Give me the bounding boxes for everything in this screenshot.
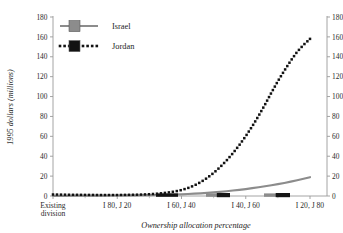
data-point-marker	[252, 124, 255, 127]
legend-marker-sample	[69, 41, 80, 52]
data-point-marker	[260, 110, 263, 113]
y-axis-right-tick-label: 160	[332, 33, 343, 42]
data-point-marker	[238, 143, 241, 146]
data-point-marker	[241, 140, 244, 143]
legend-dot-sample	[82, 45, 85, 48]
y-axis-left-tick-label: 0	[44, 192, 48, 201]
y-axis-left-tick-label: 60	[40, 132, 48, 141]
marker-cluster-overlap	[217, 193, 230, 197]
data-point-marker	[72, 194, 75, 197]
data-point-marker	[136, 193, 139, 196]
x-axis-tick-label: I 40, J 60	[232, 201, 260, 210]
legend-dot-sample	[86, 45, 89, 48]
data-point-marker	[309, 38, 312, 41]
data-point-marker	[278, 78, 281, 81]
data-point-marker	[248, 130, 251, 133]
y-axis-left-tick-label: 20	[40, 172, 48, 181]
data-point-marker	[201, 180, 204, 183]
data-point-marker	[272, 89, 275, 92]
data-point-marker	[140, 193, 143, 196]
y-axis-right-tick-label: 40	[332, 152, 340, 161]
data-point-marker	[295, 52, 298, 55]
data-point-marker	[286, 65, 289, 68]
y-axis-left-tick-label: 140	[36, 52, 47, 61]
legend-dot-sample	[91, 45, 94, 48]
data-point-marker	[176, 190, 179, 193]
data-point-marker	[284, 68, 287, 71]
data-point-marker	[250, 127, 253, 130]
data-point-marker	[92, 194, 95, 197]
data-point-marker	[168, 191, 171, 194]
data-point-marker	[205, 177, 208, 180]
data-point-marker	[96, 194, 99, 197]
data-point-marker	[290, 58, 293, 61]
x-axis-tick-label: division	[41, 209, 66, 218]
data-point-marker	[233, 150, 236, 153]
data-point-marker	[116, 194, 119, 197]
y-axis-left-tick-label: 100	[36, 92, 47, 101]
data-point-marker	[298, 49, 301, 52]
legend-marker-sample	[69, 21, 80, 32]
y-axis-left-tick-label: 120	[36, 72, 47, 81]
data-point-marker	[306, 40, 309, 43]
data-point-marker	[226, 159, 229, 162]
y-axis-left-tick-label: 180	[36, 13, 47, 22]
y-axis-left-tick-label: 160	[36, 33, 47, 42]
data-point-marker	[211, 173, 214, 176]
data-point-marker	[198, 182, 201, 185]
x-axis-title: Ownership allocation percentage	[141, 221, 251, 230]
y-axis-left-tick-label: 40	[40, 152, 48, 161]
data-point-marker	[60, 193, 63, 196]
y-axis-right-tick-label: 20	[332, 172, 340, 181]
data-point-marker	[231, 153, 234, 156]
chart-figure: 020406080100120140160180 020406080100120…	[0, 0, 343, 233]
data-point-marker	[124, 194, 127, 197]
data-point-marker	[243, 137, 246, 140]
data-point-marker	[282, 72, 285, 75]
data-point-marker	[128, 194, 130, 197]
data-point-marker	[266, 99, 269, 102]
data-point-marker	[217, 167, 220, 170]
data-point-marker	[288, 61, 291, 64]
data-point-marker	[104, 194, 107, 197]
data-point-marker	[236, 147, 239, 150]
y-axis-right-tick-label: 140	[332, 52, 343, 61]
x-axis-tick-label: I 60, J 40	[167, 201, 195, 210]
data-point-marker	[270, 92, 273, 95]
legend-dot-sample	[63, 45, 66, 48]
data-point-marker	[264, 103, 267, 106]
data-point-marker	[280, 75, 283, 78]
data-point-marker	[152, 193, 155, 196]
data-point-marker	[214, 170, 217, 173]
marker-cluster-layer	[156, 193, 290, 197]
data-point-marker	[179, 189, 182, 192]
y-axis-right-tick-label: 0	[332, 192, 336, 201]
data-point-marker	[187, 187, 190, 190]
data-point-marker	[120, 194, 123, 197]
data-point-marker	[112, 194, 115, 197]
data-point-marker	[172, 191, 175, 194]
marker-cluster-overlap	[276, 193, 290, 197]
data-point-marker	[254, 120, 257, 123]
y-axis-right-tick-label: 120	[332, 72, 343, 81]
y-axis-right-tick-label: 180	[332, 13, 343, 22]
legend-label: Israel	[112, 22, 131, 31]
data-point-marker	[208, 175, 211, 178]
data-point-marker	[108, 194, 111, 197]
x-axis-tick-label: I 20, J 80	[296, 201, 324, 210]
data-point-marker	[258, 113, 261, 116]
y-axis-left-tick-label: 80	[40, 112, 48, 121]
data-point-marker	[68, 194, 71, 197]
data-point-marker	[256, 117, 259, 120]
legend-label: Jordan	[112, 42, 135, 51]
data-point-marker	[268, 96, 271, 99]
data-point-marker	[223, 162, 226, 165]
data-point-marker	[132, 194, 135, 197]
y-axis-title: 1995 dollars (millions)	[6, 69, 15, 145]
data-point-marker	[64, 193, 67, 196]
data-point-marker	[274, 85, 277, 88]
data-point-marker	[100, 194, 103, 197]
data-point-marker	[228, 156, 231, 159]
data-point-marker	[191, 185, 194, 188]
data-point-marker	[56, 193, 59, 196]
